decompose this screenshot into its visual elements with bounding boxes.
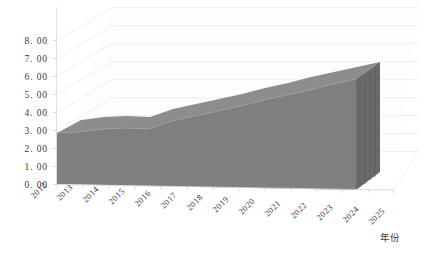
y-tick-label: 4. 00 bbox=[25, 108, 49, 118]
x-tick-label-2019: 2019 bbox=[210, 194, 230, 214]
chart-3d-area: 8. 00 7. 00 6. 00 5. 00 4. 00 3. 00 2. 0… bbox=[0, 0, 428, 272]
y-tick-label: 2. 00 bbox=[25, 144, 49, 154]
y-tick-label: 7. 00 bbox=[25, 54, 49, 64]
x-tick-label-2022: 2022 bbox=[288, 200, 308, 220]
chart-canvas: 8. 00 7. 00 6. 00 5. 00 4. 00 3. 00 2. 0… bbox=[0, 0, 428, 272]
x-tick-label-2018: 2018 bbox=[184, 192, 204, 212]
y-tick-label: 6. 00 bbox=[25, 72, 49, 82]
area-side-face bbox=[356, 62, 380, 190]
x-tick-label-2016: 2016 bbox=[132, 188, 153, 209]
x-tick-label-2021: 2021 bbox=[262, 198, 282, 218]
y-tick-marks bbox=[53, 41, 57, 185]
x-tick-label-2025: 2025 bbox=[366, 206, 386, 226]
x-tick-label-2020: 2020 bbox=[236, 196, 256, 216]
x-tick-label-2024: 2024 bbox=[340, 204, 361, 225]
x-tick-label-2014: 2014 bbox=[80, 184, 101, 205]
x-tick-label-2017: 2017 bbox=[158, 190, 179, 211]
y-tick-label: 1. 00 bbox=[25, 162, 49, 172]
y-tick-label: 3. 00 bbox=[25, 126, 49, 136]
y-tick-label: 8. 00 bbox=[25, 36, 49, 46]
x-tick-label-2023: 2023 bbox=[314, 202, 334, 222]
x-axis-title: 年份 bbox=[380, 232, 400, 243]
y-tick-label: 5. 00 bbox=[25, 90, 49, 100]
x-tick-label-2015: 2015 bbox=[106, 186, 126, 206]
y-tick-labels: 8. 00 7. 00 6. 00 5. 00 4. 00 3. 00 2. 0… bbox=[25, 36, 49, 190]
